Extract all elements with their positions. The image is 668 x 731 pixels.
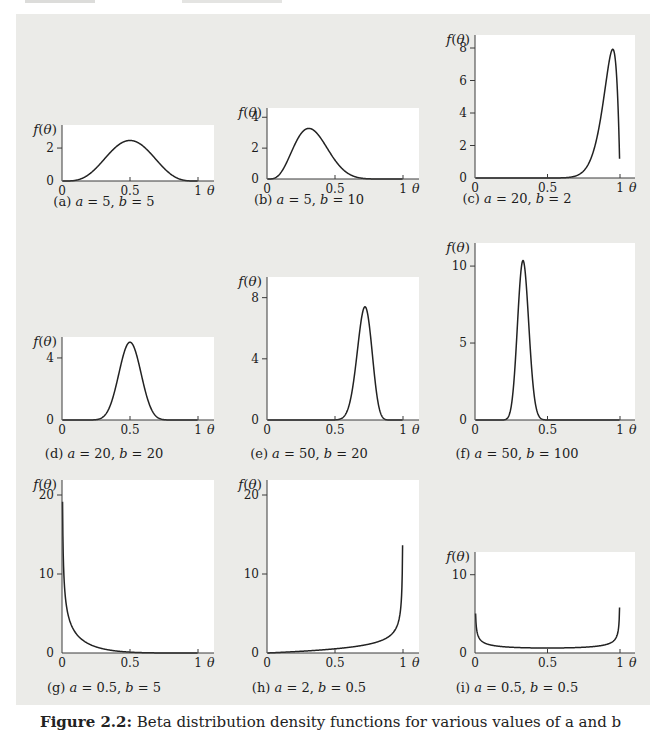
- svg-text:(c) a = 20, b = 2: (c) a = 20, b = 2: [462, 191, 571, 206]
- svg-text:0: 0: [58, 656, 66, 670]
- cropped-text-remnant: [182, 0, 282, 3]
- svg-text:10: 10: [244, 567, 259, 581]
- svg-text:θ: θ: [629, 180, 637, 195]
- subplot-f: 051000.51θf(θ)(f) a = 50, b = 100: [428, 223, 649, 472]
- svg-text:θ: θ: [629, 422, 637, 437]
- svg-text:0: 0: [46, 646, 54, 660]
- subplot-i: 01000.51θf(θ)(i) a = 0.5, b = 0.5: [428, 532, 649, 705]
- svg-text:0: 0: [251, 413, 259, 427]
- svg-text:0.5: 0.5: [538, 423, 557, 437]
- svg-text:10: 10: [452, 259, 467, 273]
- svg-text:10: 10: [452, 568, 467, 582]
- cropped-text-remnant: [25, 0, 95, 3]
- svg-text:(h) a = 2, b = 0.5: (h) a = 2, b = 0.5: [252, 680, 366, 695]
- svg-text:f(θ): f(θ): [32, 121, 57, 137]
- svg-text:(f) a = 50, b = 100: (f) a = 50, b = 100: [455, 446, 578, 461]
- svg-text:f(θ): f(θ): [445, 239, 470, 255]
- svg-text:f(θ): f(θ): [445, 548, 470, 564]
- svg-text:0: 0: [471, 423, 479, 437]
- svg-text:θ: θ: [412, 422, 420, 437]
- svg-text:2: 2: [251, 141, 259, 155]
- svg-text:1: 1: [399, 423, 407, 437]
- svg-text:(a) a = 5, b = 5: (a) a = 5, b = 5: [53, 194, 154, 209]
- svg-text:1: 1: [194, 184, 202, 198]
- svg-text:θ: θ: [629, 655, 637, 670]
- svg-text:4: 4: [46, 351, 54, 365]
- svg-text:0.5: 0.5: [120, 423, 139, 437]
- svg-text:0: 0: [263, 423, 271, 437]
- svg-text:0: 0: [263, 656, 271, 670]
- svg-text:0: 0: [46, 174, 54, 188]
- svg-text:10: 10: [39, 567, 54, 581]
- svg-text:θ: θ: [207, 655, 215, 670]
- svg-text:0: 0: [251, 172, 259, 186]
- svg-text:θ: θ: [412, 181, 420, 196]
- svg-text:θ: θ: [207, 183, 215, 198]
- figure-panel: 0200.51θf(θ)(a) a = 5, b = 5 02400.51θf(…: [16, 14, 650, 705]
- svg-text:0: 0: [471, 656, 479, 670]
- svg-text:f(θ): f(θ): [237, 104, 262, 120]
- svg-text:6: 6: [459, 74, 467, 88]
- figure-caption: Figure 2.2: Beta distribution density fu…: [40, 713, 640, 731]
- svg-text:1: 1: [399, 182, 407, 196]
- svg-text:4: 4: [459, 106, 467, 120]
- svg-text:2: 2: [459, 139, 467, 153]
- svg-text:0: 0: [459, 646, 467, 660]
- svg-text:0: 0: [46, 413, 54, 427]
- svg-text:(e) a = 50, b = 20: (e) a = 50, b = 20: [250, 446, 368, 461]
- svg-text:f(θ): f(θ): [32, 333, 57, 349]
- svg-text:(d) a = 20, b = 20: (d) a = 20, b = 20: [45, 446, 163, 461]
- svg-text:1: 1: [399, 656, 407, 670]
- svg-text:0.5: 0.5: [538, 656, 557, 670]
- svg-text:0: 0: [58, 423, 66, 437]
- svg-text:1: 1: [194, 656, 202, 670]
- figure-caption-label: Figure 2.2:: [40, 713, 132, 731]
- svg-text:1: 1: [616, 656, 624, 670]
- subplot-h: 0102000.51θf(θ)(h) a = 2, b = 0.5: [220, 460, 433, 705]
- svg-text:θ: θ: [412, 655, 420, 670]
- figure-caption-text: Beta distribution density functions for …: [132, 713, 621, 731]
- svg-text:0: 0: [459, 171, 467, 185]
- svg-text:f(θ): f(θ): [445, 31, 470, 47]
- svg-text:0.5: 0.5: [325, 423, 344, 437]
- svg-text:2: 2: [46, 141, 54, 155]
- svg-text:(b) a = 5, b = 10: (b) a = 5, b = 10: [254, 192, 364, 207]
- svg-text:0.5: 0.5: [120, 656, 139, 670]
- svg-text:1: 1: [616, 181, 624, 195]
- svg-text:5: 5: [459, 336, 467, 350]
- subplot-e: 04800.51θf(θ)(e) a = 50, b = 20: [220, 257, 433, 472]
- svg-text:0: 0: [459, 413, 467, 427]
- subplot-g: 0102000.51θf(θ)(g) a = 0.5, b = 5: [15, 460, 228, 705]
- svg-text:f(θ): f(θ): [237, 273, 262, 289]
- svg-text:0.5: 0.5: [325, 656, 344, 670]
- svg-text:1: 1: [194, 423, 202, 437]
- svg-text:0: 0: [251, 646, 259, 660]
- svg-text:4: 4: [251, 352, 259, 366]
- svg-text:f(θ): f(θ): [237, 476, 262, 492]
- svg-text:θ: θ: [207, 422, 215, 437]
- svg-text:8: 8: [251, 291, 259, 305]
- subplot-a: 0200.51θf(θ)(a) a = 5, b = 5: [15, 105, 228, 233]
- subplot-b: 02400.51θf(θ)(b) a = 5, b = 10: [220, 88, 433, 231]
- svg-text:(g) a = 0.5, b = 5: (g) a = 0.5, b = 5: [47, 680, 161, 695]
- subplot-c: 0246800.51θf(θ)(c) a = 20, b = 2: [428, 15, 649, 230]
- svg-text:f(θ): f(θ): [32, 476, 57, 492]
- svg-text:1: 1: [616, 423, 624, 437]
- subplot-d: 0400.51θf(θ)(d) a = 20, b = 20: [15, 317, 228, 472]
- svg-text:(i) a = 0.5, b = 0.5: (i) a = 0.5, b = 0.5: [456, 680, 578, 695]
